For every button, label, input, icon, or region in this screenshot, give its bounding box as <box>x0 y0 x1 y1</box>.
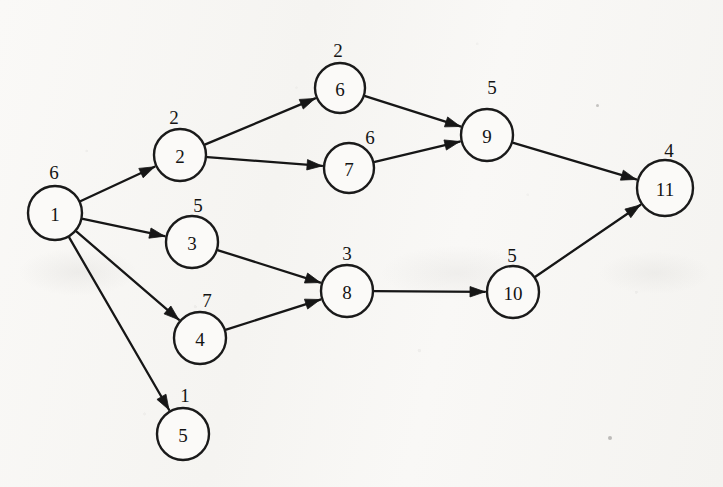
edge-arrowhead <box>304 299 320 309</box>
node-weight-label-9: 5 <box>487 77 497 98</box>
graph-node-6[interactable]: 6 <box>315 63 365 113</box>
node-weight-label-8: 3 <box>342 243 352 264</box>
graph-edge <box>207 157 322 170</box>
node-weight-label-1: 6 <box>49 162 59 183</box>
node-id-label: 4 <box>195 329 205 350</box>
graph-figure: 1234567891011 62571263554 <box>0 0 723 487</box>
edge-arrowhead <box>307 160 322 170</box>
node-id-label: 9 <box>482 126 492 147</box>
node-id-label: 8 <box>342 282 352 303</box>
edge-arrowhead <box>299 98 315 109</box>
graph-node-5[interactable]: 5 <box>157 408 209 460</box>
graph-edge <box>226 299 320 329</box>
node-weight-label-10: 5 <box>507 245 517 266</box>
node-weight-label-7: 6 <box>365 127 375 148</box>
edge-arrowhead <box>149 228 165 238</box>
node-weight-label-5: 1 <box>180 385 190 406</box>
graph-edge <box>205 98 315 144</box>
node-id-label: 6 <box>335 79 345 100</box>
graph-node-7[interactable]: 7 <box>324 143 374 193</box>
graph-edge <box>218 250 320 283</box>
graph-edge <box>365 96 460 127</box>
node-id-label: 7 <box>344 159 354 180</box>
graph-edge <box>513 143 636 180</box>
graph-edge <box>81 167 155 201</box>
node-layer: 1234567891011 <box>28 63 693 460</box>
graph-node-10[interactable]: 10 <box>487 266 539 318</box>
graph-node-9[interactable]: 9 <box>461 109 513 161</box>
node-weight-label-6: 2 <box>333 40 343 61</box>
edge-arrowhead <box>620 170 636 180</box>
edge-arrowhead <box>157 394 169 410</box>
graph-node-2[interactable]: 2 <box>154 129 206 181</box>
node-id-label: 10 <box>504 283 523 304</box>
graph-node-3[interactable]: 3 <box>166 216 218 268</box>
node-id-label: 1 <box>50 204 60 225</box>
graph-edge <box>536 205 641 277</box>
graph-canvas: 1234567891011 62571263554 <box>0 0 723 487</box>
graph-node-1[interactable]: 1 <box>28 186 82 240</box>
edge-arrowhead <box>444 117 460 127</box>
node-weight-label-3: 5 <box>193 195 203 216</box>
node-id-label: 2 <box>175 146 185 167</box>
graph-node-11[interactable]: 11 <box>637 160 693 216</box>
node-id-label: 5 <box>178 425 188 446</box>
graph-edge <box>83 219 165 238</box>
edge-arrowhead <box>304 273 320 283</box>
node-weight-label-4: 7 <box>202 290 212 311</box>
edge-arrowhead <box>470 287 485 297</box>
graph-edge <box>375 140 460 162</box>
node-weight-label-2: 2 <box>169 107 179 128</box>
edge-arrowhead <box>625 205 640 218</box>
graph-edge <box>69 238 169 410</box>
graph-edge <box>375 287 486 297</box>
edge-arrowhead <box>444 140 460 150</box>
edge-arrowhead <box>139 167 155 178</box>
graph-node-4[interactable]: 4 <box>174 312 226 364</box>
graph-node-8[interactable]: 8 <box>321 265 373 317</box>
node-id-label: 3 <box>187 233 197 254</box>
node-id-label: 11 <box>656 179 674 200</box>
node-weight-label-11: 4 <box>664 140 674 161</box>
